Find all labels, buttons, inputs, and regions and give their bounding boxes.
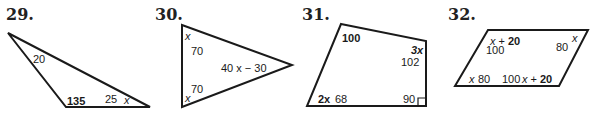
expr-const: 20 [508,35,520,47]
angle-label-29-top: 20 [33,53,45,65]
angle-label-31-top-right-var: 3x [411,44,424,56]
angle-label-31-bottom-left-var: 2x [318,93,331,105]
right-angle-marker-31 [418,98,426,106]
angle-label-29-bottom-right-value: 25 [105,93,117,105]
angle-label-32-bottom-left-value: 80 [478,73,490,85]
figures: 20 135 25 x x 70 40 x − 30 70 x 100 3x 1… [0,0,595,116]
angle-label-30-bottom-value: 70 [191,83,203,95]
angle-label-32-bottom-right-value: 100 [502,73,520,85]
expr-var: x [521,73,528,85]
angle-label-32-bottom-right-expr: x+20 [521,73,552,85]
angle-label-30-top-var: x [184,30,191,42]
angle-label-32-top-right-value: 80 [556,41,568,53]
angle-label-32-top-left-value: 100 [486,44,504,56]
angle-label-31-bottom-right: 90 [403,93,415,105]
angle-label-30-bottom-var: x [184,92,191,104]
angle-label-30-top-value: 70 [191,45,203,57]
angle-label-32-bottom-left-var: x [468,73,475,85]
angle-label-30-right: 40 x − 30 [221,62,267,74]
expr-plus: + [531,73,537,85]
angle-label-29-bottom-left: 135 [67,95,85,107]
expr-const: 20 [540,73,552,85]
angle-label-31-top-right-value: 102 [401,56,419,68]
angle-label-31-top-left: 100 [342,32,360,44]
angle-label-32-top-right-var: x [571,32,578,44]
angle-label-31-bottom-left-value: 68 [335,93,347,105]
angle-label-29-bottom-right-var: x [123,94,130,106]
